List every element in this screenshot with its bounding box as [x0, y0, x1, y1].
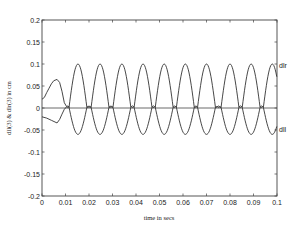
y-axis-label: dll(3) & dlr(3) in cm	[5, 81, 13, 135]
x-axis-ticks: 00.010.020.030.040.050.060.070.080.090.1	[40, 20, 282, 206]
y-tick-label: 0.2	[30, 17, 40, 24]
x-tick-label: 0.05	[153, 199, 167, 206]
y-tick-label: -0.2	[28, 193, 40, 200]
x-tick-label: 0	[40, 199, 44, 206]
x-tick-label: 0.1	[272, 199, 282, 206]
x-tick-label: 0.09	[247, 199, 261, 206]
x-tick-label: 0.04	[129, 199, 143, 206]
x-axis-label: time in secs	[144, 214, 175, 221]
y-tick-label: 0.05	[26, 83, 40, 90]
series-label-dlr: dlr	[279, 62, 287, 69]
series-dlr-line	[42, 64, 277, 108]
series-curves	[42, 64, 277, 134]
series-labels: dlrdll	[279, 62, 287, 133]
x-tick-label: 0.03	[106, 199, 120, 206]
series-dll-line	[42, 106, 277, 135]
y-tick-label: 0	[36, 105, 40, 112]
y-tick-label: -0.05	[24, 127, 40, 134]
line-chart: 00.010.020.030.040.050.060.070.080.090.1…	[0, 0, 300, 235]
y-tick-label: 0.15	[26, 39, 40, 46]
x-tick-label: 0.02	[82, 199, 96, 206]
y-tick-label: 0.1	[30, 61, 40, 68]
x-tick-label: 0.08	[223, 199, 237, 206]
x-tick-label: 0.06	[176, 199, 190, 206]
y-tick-label: -0.15	[24, 171, 40, 178]
y-tick-label: -0.1	[28, 149, 40, 156]
series-label-dll: dll	[279, 126, 286, 133]
x-tick-label: 0.01	[59, 199, 73, 206]
plot-area: 00.010.020.030.040.050.060.070.080.090.1…	[24, 17, 287, 207]
x-tick-label: 0.07	[200, 199, 214, 206]
